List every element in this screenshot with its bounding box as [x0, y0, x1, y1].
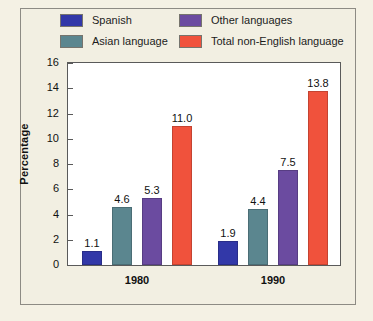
y-axis-tick-mark: [68, 88, 73, 89]
bar-value-label: 5.3: [144, 184, 159, 196]
bar-value-label: 1.9: [220, 227, 235, 239]
y-axis-tick-mark: [68, 265, 73, 266]
y-axis-tick-mark: [68, 114, 73, 115]
y-axis-tick-mark: [68, 240, 73, 241]
bar: 1.9: [218, 241, 238, 265]
bar: 4.4: [248, 209, 268, 265]
chart-figure: Spanish Asian language Other languages T…: [0, 0, 373, 321]
y-axis-tick-mark: [68, 139, 73, 140]
plot-wrapper: Percentage 16141210864201.14.65.311.0198…: [0, 0, 373, 321]
bar: 5.3: [142, 198, 162, 265]
x-axis-category-label: 1980: [125, 274, 149, 286]
bar-value-label: 4.4: [250, 195, 265, 207]
x-axis-category-label: 1990: [261, 274, 285, 286]
bar-value-label: 1.1: [84, 237, 99, 249]
bar: 1.1: [82, 251, 102, 265]
y-axis-tick-mark: [68, 63, 73, 64]
y-axis-tick-mark: [68, 164, 73, 165]
bar: 4.6: [112, 207, 132, 265]
bar: 13.8: [308, 91, 328, 265]
bar: 11.0: [172, 126, 192, 265]
y-axis-tick-mark: [68, 189, 73, 190]
bar-value-label: 7.5: [280, 156, 295, 168]
bar-value-label: 4.6: [114, 193, 129, 205]
bar-value-label: 13.8: [307, 77, 328, 89]
plot-area: 16141210864201.14.65.311.019801.94.47.51…: [67, 62, 341, 266]
y-axis-tick-mark: [68, 215, 73, 216]
bar-value-label: 11.0: [172, 112, 193, 124]
y-axis-title: Percentage: [18, 114, 30, 194]
bar: 7.5: [278, 170, 298, 265]
